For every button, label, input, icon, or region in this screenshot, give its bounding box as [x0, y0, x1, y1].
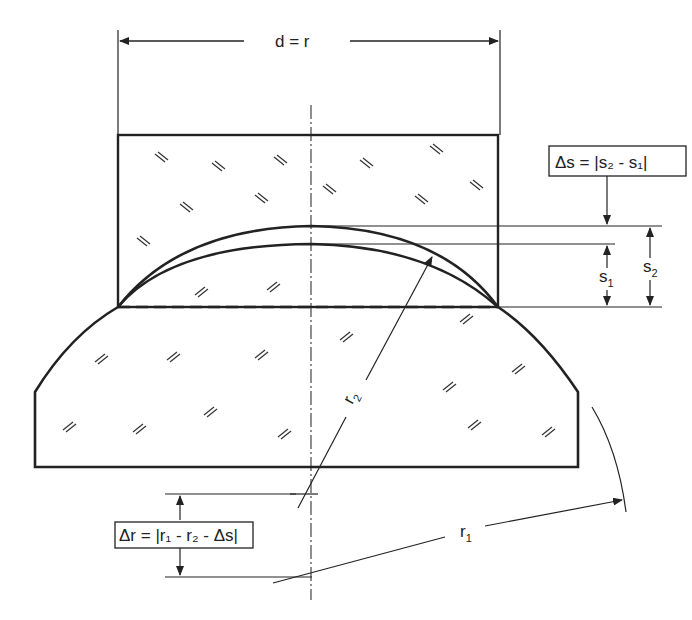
delta-s-label: Δs = |s₂ - s₁| — [549, 146, 686, 224]
svg-text:s2: s2 — [643, 257, 658, 279]
s2-dimension: s2 — [643, 228, 658, 305]
svg-text:r1: r1 — [460, 522, 472, 544]
diameter-dimension: d = r — [118, 30, 500, 135]
s1-dimension: s1 — [599, 246, 614, 305]
r2-radius: r2 — [298, 257, 432, 508]
delta-r-dimension: Δr = |r₁ - r₂ - Δs| — [115, 494, 318, 577]
svg-text:r2: r2 — [339, 388, 364, 409]
lens-body — [35, 307, 578, 467]
svg-text:Δr = |r₁ - r₂ - Δs|: Δr = |r₁ - r₂ - Δs| — [119, 526, 238, 545]
glass-hatching-lens — [63, 282, 555, 439]
top-glass-plate — [118, 135, 498, 307]
svg-text:s1: s1 — [599, 267, 614, 289]
arc-r2 — [118, 244, 498, 307]
r1-radius: r1 — [273, 407, 626, 583]
svg-text:Δs = |s₂ - s₁|: Δs = |s₂ - s₁| — [555, 153, 648, 172]
diameter-label: d = r — [275, 32, 310, 51]
lens-contact-diagram: d = r Δs = |s₂ - s₁| s1 s2 r2 — [0, 0, 692, 620]
